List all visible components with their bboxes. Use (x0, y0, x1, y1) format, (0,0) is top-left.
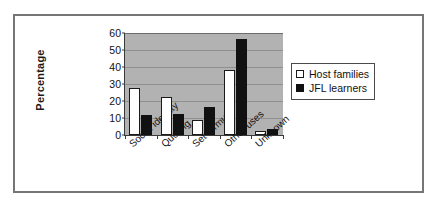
bar (161, 97, 172, 135)
y-tick-label: 10 (109, 112, 121, 124)
plot-area: 0102030405060Social identityQuotingSet f… (124, 33, 283, 136)
x-tick-mark (157, 135, 158, 139)
y-tick-label: 40 (109, 61, 121, 73)
x-tick-mark (220, 135, 221, 139)
white-square-icon (296, 70, 304, 78)
y-tick-label: 60 (109, 27, 121, 39)
legend-item-host-families: Host families (296, 67, 369, 81)
y-axis-title: Percentage (34, 32, 46, 128)
x-tick-mark (251, 135, 252, 139)
legend-label-host-families: Host families (309, 68, 369, 80)
legend-item-jfl-learners: JFL learners (296, 81, 369, 95)
y-tick-label: 0 (115, 129, 121, 141)
chart-legend: Host families JFL learners (291, 63, 375, 100)
x-tick-mark (125, 135, 126, 139)
bar-chart: Percentage 0102030405060Social identityQ… (15, 16, 426, 195)
bar (129, 88, 140, 135)
x-tick-mark (283, 135, 284, 139)
black-square-icon (296, 84, 304, 92)
y-tick-label: 30 (109, 78, 121, 90)
figure-frame: Percentage 0102030405060Social identityQ… (13, 14, 424, 193)
bar (224, 70, 235, 135)
y-tick-label: 50 (109, 44, 121, 56)
legend-label-jfl-learners: JFL learners (309, 82, 367, 94)
x-tick-mark (188, 135, 189, 139)
y-tick-label: 20 (109, 95, 121, 107)
